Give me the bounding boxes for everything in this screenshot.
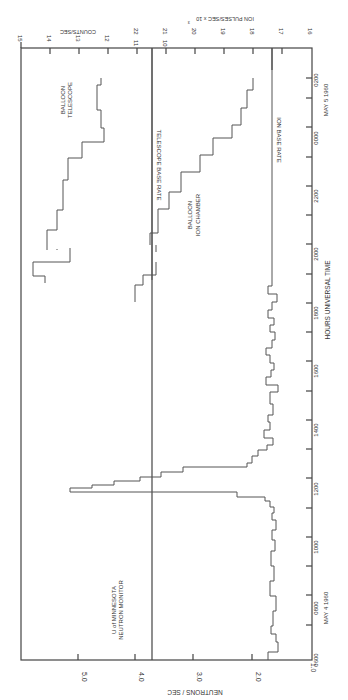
neutron-tick: 4.0 xyxy=(138,672,145,682)
time-axis: 0600 0800 1000 1200 1400 1600 1800 2000 … xyxy=(306,73,331,667)
ion-chamber-label-1: BALLOON xyxy=(187,201,193,229)
neutron-monitor-label-2: NEUTRON MONITOR xyxy=(118,580,124,640)
svg-text:20: 20 xyxy=(191,28,197,35)
balloon-ion-chamber-series xyxy=(135,78,253,302)
time-axis-label: HOURS UNIVERSAL TIME xyxy=(324,260,331,340)
svg-text:1000: 1000 xyxy=(313,540,319,554)
neutron-monitor-label-1: U of MINNESOTA xyxy=(111,586,117,634)
telescope-base-label: TELESCOPE BASE RATE xyxy=(156,130,162,201)
svg-text:14: 14 xyxy=(46,35,52,42)
svg-text:22: 22 xyxy=(133,28,139,35)
svg-text:1800: 1800 xyxy=(313,306,319,320)
svg-text:21: 21 xyxy=(162,28,168,35)
neutron-axis-label: NEUTRONS / SEC xyxy=(167,689,223,696)
svg-text:11: 11 xyxy=(133,40,139,47)
svg-text:10: 10 xyxy=(162,40,168,47)
svg-text:1600: 1600 xyxy=(313,364,319,378)
date-label-may5: MAY 5 1960 xyxy=(323,83,329,116)
svg-text:0200: 0200 xyxy=(313,73,319,87)
svg-text:16: 16 xyxy=(307,28,313,35)
svg-text:0800: 0800 xyxy=(313,601,319,615)
svg-text:1400: 1400 xyxy=(313,423,319,437)
svg-text:2000: 2000 xyxy=(313,247,319,261)
telescope-label-2: TELESCOPE xyxy=(67,82,73,118)
svg-text:19: 19 xyxy=(220,28,226,35)
svg-text:12: 12 xyxy=(104,35,110,42)
svg-text:13: 13 xyxy=(75,35,81,42)
svg-text:17: 17 xyxy=(278,28,284,35)
ion-chamber-label-2: ION CHAMBER xyxy=(195,193,201,236)
ion-axis-exponent: 3 xyxy=(187,20,190,25)
ion-axis-label: ION PULSES/SEC x 10 xyxy=(196,16,254,22)
svg-text:15: 15 xyxy=(17,35,23,42)
svg-text:18: 18 xyxy=(249,28,255,35)
neutron-monitor-chart: 5.0 4.0 3.0 2.0 1.0 NEUTRONS / SEC 0600 … xyxy=(0,0,348,700)
neutron-monitor-series xyxy=(70,280,278,660)
ion-base-label: ION BASE RATE xyxy=(276,117,282,163)
svg-text:2200: 2200 xyxy=(313,189,319,203)
date-label-may4: MAY 4 1960 xyxy=(323,591,329,624)
svg-text:0000: 0000 xyxy=(313,131,319,145)
svg-text:0600: 0600 xyxy=(313,653,319,667)
neutron-tick: 2.0 xyxy=(255,672,262,682)
telescope-label-1: BALLOON xyxy=(60,86,66,114)
plot-frame xyxy=(21,48,312,660)
neutron-tick: 3.0 xyxy=(196,672,203,682)
neutron-tick: 5.0 xyxy=(81,672,88,682)
svg-text:1200: 1200 xyxy=(313,482,319,496)
counts-axis-label: COUNTS/SEC xyxy=(60,29,96,35)
